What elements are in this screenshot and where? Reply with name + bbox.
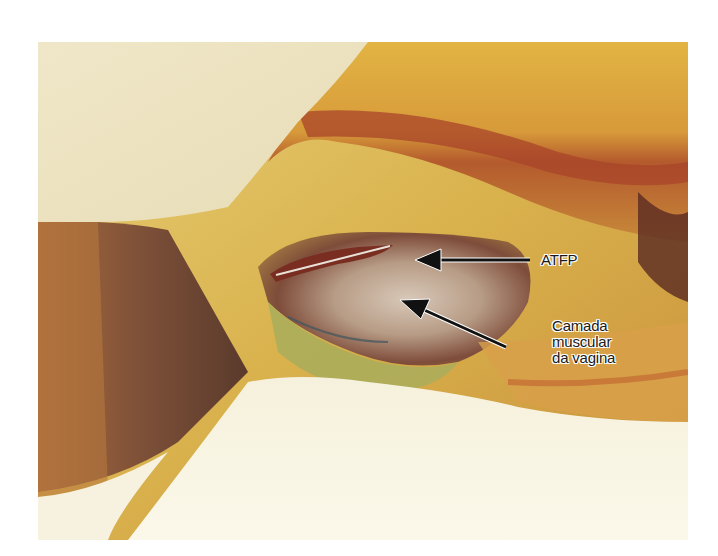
annotation-label-camada: Camada muscular da vagina bbox=[552, 318, 662, 366]
annotation-label-camada-line-3: da vagina bbox=[552, 350, 662, 366]
annotation-label-camada-line-2: muscular bbox=[552, 334, 662, 350]
dissection-photo bbox=[38, 42, 688, 540]
arrow-atfp bbox=[415, 249, 530, 271]
annotation-label-camada-line-1: Camada bbox=[552, 318, 662, 334]
annotation-arrows bbox=[38, 42, 688, 540]
annotation-label-atfp: ATFP bbox=[541, 252, 577, 268]
arrow-camada bbox=[400, 299, 506, 347]
